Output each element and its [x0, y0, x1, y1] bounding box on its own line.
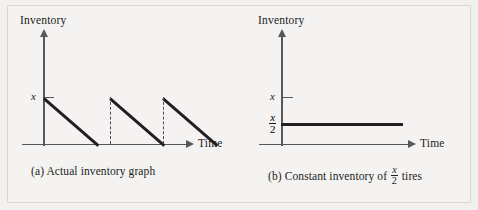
- y-tick-denominator: 2: [269, 124, 277, 135]
- x-axis-line: [259, 144, 409, 146]
- caption-denominator: 2: [391, 176, 398, 186]
- x-axis-label: Time: [420, 137, 445, 149]
- y-tick-label-x-over-2: x 2: [269, 112, 277, 135]
- panel-b-caption-fraction: x 2: [391, 165, 398, 187]
- inventory-figure: Inventory Time x (a) Actual inventory gr…: [0, 0, 478, 210]
- y-axis-label: Inventory: [20, 14, 67, 26]
- constant-inventory-line: [281, 123, 403, 126]
- panel-b-caption-suffix: tires: [402, 170, 422, 182]
- x-axis-arrow-icon: [408, 140, 416, 148]
- y-axis-label: Inventory: [258, 14, 305, 26]
- panel-a-caption: (a) Actual inventory graph: [31, 165, 155, 177]
- panel-constant-inventory-graph: Inventory Time x x 2 (b) Constant invent…: [239, 0, 478, 210]
- y-tick-x: [281, 97, 293, 98]
- y-tick-label-x: x: [270, 90, 275, 102]
- y-tick-label-x: x: [31, 90, 36, 102]
- panel-b-caption: (b) Constant inventory of x 2 tires: [268, 165, 422, 187]
- replenishment-dash-1: [110, 97, 111, 144]
- panel-b-caption-prefix: (b) Constant inventory of: [268, 170, 387, 182]
- x-axis-arrow-icon: [186, 140, 194, 148]
- panel-actual-inventory-graph: Inventory Time x (a) Actual inventory gr…: [0, 0, 239, 210]
- sawtooth-segment-1: [43, 97, 99, 146]
- y-axis-line: [43, 36, 45, 146]
- sawtooth-segment-2: [109, 97, 165, 146]
- y-axis-line: [281, 36, 283, 146]
- replenishment-dash-2: [163, 97, 164, 144]
